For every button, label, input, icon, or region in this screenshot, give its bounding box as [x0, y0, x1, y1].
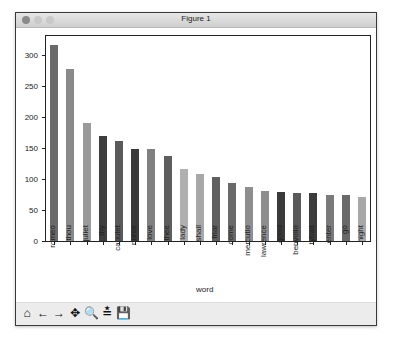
x-tick: [168, 241, 169, 245]
x-tick-label: good: [275, 225, 284, 243]
x-tick-label: thou: [64, 225, 73, 241]
y-tick: [42, 148, 46, 149]
bar-juliet: [83, 123, 91, 241]
figure-window: Figure 1 050100150200250300 romeothoujul…: [15, 12, 377, 326]
plot-axes: 050100150200250300: [45, 35, 371, 242]
y-tick: [42, 117, 46, 118]
y-tick-label: 200: [25, 113, 38, 122]
x-tick-label: go: [340, 225, 349, 234]
x-tick: [346, 241, 347, 245]
bar-romeo: [50, 45, 58, 241]
x-tick-label: tybalt: [307, 225, 316, 244]
y-tick-label: 300: [25, 51, 38, 60]
configure-subplots-icon[interactable]: ≛: [100, 306, 114, 320]
x-tick-label: love: [145, 225, 154, 240]
home-icon[interactable]: ⌂: [20, 306, 34, 320]
forward-arrow-icon[interactable]: →: [52, 306, 66, 320]
y-tick-label: 0: [34, 237, 38, 246]
title-bar[interactable]: Figure 1: [16, 13, 376, 28]
bar-thou: [66, 69, 74, 241]
x-tick: [216, 241, 217, 245]
x-tick: [151, 241, 152, 245]
y-tick-label: 250: [25, 82, 38, 91]
x-tick-label: nurse: [129, 225, 138, 245]
x-tick-label: mercutio: [243, 225, 252, 256]
y-tick: [42, 179, 46, 180]
back-arrow-icon[interactable]: ←: [36, 306, 50, 320]
x-tick-label: capulet: [113, 225, 122, 251]
bar-go: [342, 195, 350, 241]
y-tick: [42, 241, 46, 242]
x-tick: [184, 241, 185, 245]
x-tick-label: lady: [178, 225, 187, 240]
x-tick-label: night: [356, 225, 365, 242]
x-axis-title: word: [196, 285, 213, 294]
x-tick-label: thy: [97, 225, 106, 236]
x-tick-label: come: [226, 225, 235, 245]
x-tick-label: thee: [162, 225, 171, 241]
x-tick: [87, 241, 88, 245]
y-tick-label: 100: [25, 175, 38, 184]
navigation-toolbar: ⌂←→✥🔍≛💾: [16, 302, 376, 325]
x-tick-label: romeo: [48, 225, 57, 248]
x-tick-label: enter: [324, 225, 333, 243]
x-tick-label: shall: [194, 225, 203, 241]
x-tick: [70, 241, 71, 245]
pan-icon[interactable]: ✥: [68, 306, 82, 320]
y-tick: [42, 86, 46, 87]
zoom-icon[interactable]: 🔍: [84, 306, 98, 320]
window-title: Figure 1: [16, 14, 376, 23]
y-tick: [42, 55, 46, 56]
x-tick-label: friar: [210, 225, 219, 239]
x-tick: [103, 241, 104, 245]
x-tick-label: benvolio: [291, 225, 300, 255]
x-tick: [200, 241, 201, 245]
x-tick-label: lawrence: [259, 225, 268, 257]
save-icon[interactable]: 💾: [116, 306, 130, 320]
y-tick-label: 150: [25, 144, 38, 153]
x-tick-label: juliet: [81, 225, 90, 241]
y-tick-label: 50: [29, 206, 38, 215]
y-tick: [42, 210, 46, 211]
